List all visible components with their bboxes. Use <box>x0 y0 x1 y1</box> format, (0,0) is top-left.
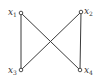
node-label-x4: x4 <box>84 66 93 76</box>
node-x3 <box>19 68 23 72</box>
node-x4 <box>78 68 82 72</box>
node-x2 <box>79 10 83 14</box>
edge-x2-x3 <box>21 12 81 70</box>
node-label-x2: x2 <box>84 7 93 17</box>
node-label-x1: x1 <box>8 8 17 18</box>
edge-x2-x4 <box>80 12 81 70</box>
edges-group <box>21 12 81 70</box>
node-x1 <box>19 11 23 15</box>
node-label-x3: x3 <box>8 66 17 76</box>
